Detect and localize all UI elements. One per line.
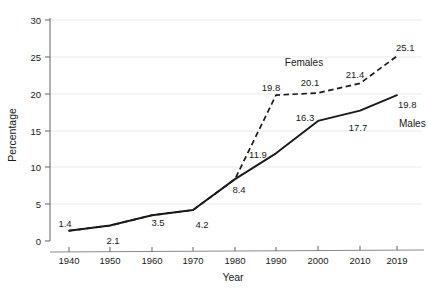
y-tick-label-15: 15 [30, 126, 41, 137]
point-label-0: 1.4 [58, 218, 71, 229]
x-axis-title: Year [222, 271, 244, 283]
y-tick-label-25: 25 [30, 52, 41, 63]
point-label-4: 8.4 [232, 184, 245, 195]
series-group [69, 56, 397, 231]
x-tick-label-1990: 1990 [265, 255, 286, 266]
x-tick-label-1980: 1980 [224, 255, 245, 266]
point-label-9: 19.8 [262, 82, 281, 93]
point-label-5: 11.9 [249, 149, 267, 160]
point-label-12: 25.1 [396, 42, 415, 53]
line-chart: 30 25 20 15 10 5 0 Percentage 1940 1950 … [0, 0, 428, 298]
y-axis-title: Percentage [6, 108, 18, 162]
point-label-10: 20.1 [301, 77, 320, 88]
point-label-2: 3.5 [151, 217, 164, 228]
y-tick-label-30: 30 [30, 15, 41, 26]
point-label-6: 16.3 [296, 112, 315, 123]
x-axis: 1940 1950 1960 1970 1980 1990 2000 2010 … [50, 246, 424, 283]
point-label-7: 17.7 [349, 122, 368, 133]
series-annotation-females: Females [285, 57, 323, 68]
y-tick-label-20: 20 [30, 89, 41, 100]
y-tick-label-0: 0 [36, 236, 41, 247]
series-line-females [69, 56, 397, 231]
x-axis-line [50, 250, 424, 252]
x-tick-label-2010: 2010 [349, 255, 370, 266]
point-value-labels: 1.42.13.54.28.411.916.317.719.819.820.12… [58, 42, 416, 246]
point-label-1: 2.1 [106, 235, 119, 246]
x-tick-label-1970: 1970 [182, 255, 203, 266]
x-tick-label-2019: 2019 [386, 255, 407, 266]
chart-canvas: 30 25 20 15 10 5 0 Percentage 1940 1950 … [0, 0, 428, 298]
series-annotation-males: Males [399, 118, 426, 129]
series-line-males [69, 95, 397, 231]
point-label-3: 4.2 [195, 219, 208, 230]
x-tick-label-1950: 1950 [99, 255, 120, 266]
x-tick-label-1940: 1940 [58, 255, 79, 266]
y-axis: 30 25 20 15 10 5 0 Percentage [6, 15, 50, 247]
y-tick-label-10: 10 [30, 162, 41, 173]
point-label-11: 21.4 [346, 69, 365, 80]
point-label-8: 19.8 [398, 99, 417, 110]
y-tick-label-5: 5 [36, 199, 41, 210]
x-tick-label-1960: 1960 [141, 255, 162, 266]
x-tick-label-2000: 2000 [307, 255, 328, 266]
